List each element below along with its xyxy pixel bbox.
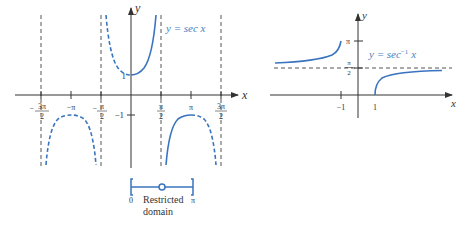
sec-right-bowl-solid [166,115,191,165]
x-tick-labels: − 3π 2 −π − π 2 π 2 π 3π [29,102,227,121]
sec-left-bowl-dashed [46,115,96,165]
restricted-domain-caption-1: Restricted [143,194,184,205]
sec-central-left-dashed [106,15,131,75]
sec-graph-title: y = sec x [165,22,206,34]
svg-text:2: 2 [100,112,104,121]
restricted-domain-left-label: 0 [129,196,133,205]
tick-label-neg-pi-over-2: − π 2 [92,102,107,121]
restricted-domain-bracket [131,179,193,195]
arcsec-left-branch [275,41,341,63]
svg-text:2: 2 [40,112,44,121]
excluded-point-pi-over-2 [159,184,165,190]
arcsec-graph-title: y = sec−1x [368,48,416,60]
x-axis-label: x [241,88,248,102]
y-tick-label-pi: π [346,37,350,46]
tick-label-pi: π [189,103,193,112]
svg-text:π: π [100,102,104,111]
svg-text:π: π [347,59,351,67]
y-axis-label-right: y [361,9,367,21]
svg-text:−: − [92,104,97,113]
svg-text:−: − [29,104,34,113]
y-axis-label: y [134,1,141,15]
svg-text:2: 2 [347,69,351,77]
restricted-domain-caption-2: domain [143,206,173,217]
tick-label-neg-3pi-over-2: − 3π 2 [29,102,49,121]
x-tick-label-1: 1 [373,103,377,112]
sec-graph: x y − 3π 2 −π − π [15,1,248,217]
tick-label-3pi-over-2: 3π 2 [215,102,227,121]
svg-text:2: 2 [159,112,163,121]
diagram-canvas: x y − 3π 2 −π − π [0,0,466,226]
x-axis-label-right: x [450,97,456,109]
tick-label-neg-pi: −π [67,103,76,112]
svg-text:2: 2 [219,112,223,121]
restricted-domain-right-label: π [191,196,195,205]
svg-text:π: π [159,102,163,111]
arcsec-right-branch [375,71,442,96]
y-tick-label-minus-1: −1 [114,110,124,120]
svg-text:y = sec−1x: y = sec−1x [368,48,416,60]
sec-central-right-solid [131,15,156,75]
tick-label-pi-over-2: π 2 [157,102,165,121]
x-tick-label-minus-1: −1 [337,103,346,112]
svg-text:3π: 3π [217,102,225,111]
arcsec-graph: x y π π 2 −1 1 y = sec−1x [270,9,456,118]
svg-text:3π: 3π [38,102,46,111]
sec-right-bowl-dashed [191,115,216,165]
